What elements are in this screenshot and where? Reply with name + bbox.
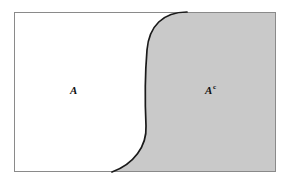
set-label-a-complement: Ac [205, 84, 216, 96]
figure-container: A Ac [0, 0, 290, 184]
set-label-a-complement-text: A [205, 84, 213, 96]
set-label-a: A [70, 84, 78, 96]
set-label-a-text: A [70, 84, 78, 96]
set-diagram [0, 0, 290, 184]
set-label-complement-superscript: c [213, 83, 216, 91]
